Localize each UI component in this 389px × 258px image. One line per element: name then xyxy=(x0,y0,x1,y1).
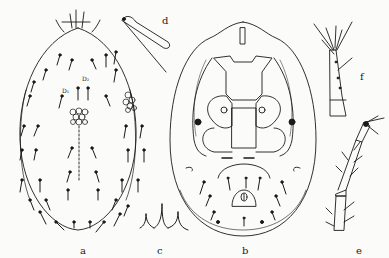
panel-label-f: f xyxy=(360,72,364,82)
seta-label-d2: D₂ xyxy=(82,76,89,82)
panel-label-b: b xyxy=(242,246,248,256)
panel-b-ventral-body xyxy=(170,22,316,236)
panel-label-e: e xyxy=(356,246,362,256)
panel-c-setae xyxy=(140,204,188,230)
panel-f-tarsus xyxy=(314,22,352,116)
panel-a-dorsal-body xyxy=(20,10,145,232)
panel-label-a: a xyxy=(80,246,86,256)
seta-label-d1: D₁ xyxy=(62,88,69,94)
figure-drawing xyxy=(0,0,389,258)
mite-figure: D₁ D₂ a b c d e f xyxy=(0,0,389,258)
panel-label-d: d xyxy=(162,16,168,26)
panel-label-c: c xyxy=(157,246,163,256)
panel-e-leg xyxy=(326,116,384,230)
